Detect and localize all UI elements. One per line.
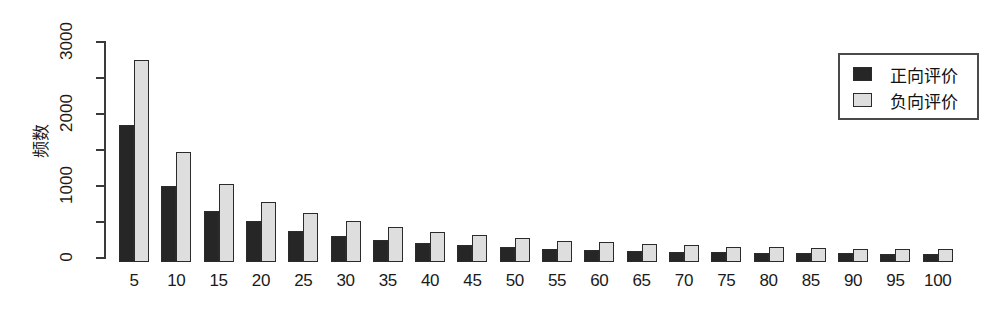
x-axis-tick-label: 55 (537, 271, 577, 291)
chart-canvas: 0100020003000 频数 51015202530354045505560… (0, 0, 1002, 329)
legend-swatch-negative-icon (853, 93, 872, 107)
bar-negative (726, 247, 741, 262)
x-axis-tick-label: 65 (622, 271, 662, 291)
legend-label-negative: 负向评价 (890, 88, 958, 113)
bar-positive (627, 251, 642, 262)
bar-positive (204, 211, 219, 262)
bar-negative (557, 241, 572, 262)
y-axis-tick-label-text: 0 (57, 252, 77, 261)
bar-group (627, 20, 657, 260)
bar-negative (811, 248, 826, 262)
bar-positive (923, 254, 938, 262)
x-axis-tick-label: 90 (833, 271, 873, 291)
legend-item-negative: 负向评价 (853, 89, 958, 111)
bar-positive (669, 252, 684, 262)
bar-group (457, 20, 487, 260)
bar-positive (754, 253, 769, 262)
bar-group (204, 20, 234, 260)
bar-group (584, 20, 614, 260)
bar-negative (303, 213, 318, 262)
y-axis-tick-label: 3000 (44, 31, 90, 51)
y-axis-tick-label-text: 3000 (57, 22, 77, 60)
bar-negative (599, 242, 614, 262)
bar-negative (938, 249, 953, 262)
bar-negative (219, 184, 234, 262)
legend-swatch-positive-icon (853, 67, 872, 81)
x-axis-tick-label: 40 (410, 271, 450, 291)
x-axis-tick-label: 60 (579, 271, 619, 291)
bar-negative (261, 202, 276, 262)
bar-positive (796, 253, 811, 262)
bar-group (331, 20, 361, 260)
y-axis-tick-label-text: 1000 (57, 166, 77, 204)
bar-group (796, 20, 826, 260)
y-axis-title: 频数 (27, 124, 52, 158)
x-axis-tick-label: 50 (495, 271, 535, 291)
bar-group (161, 20, 191, 260)
bar-group (246, 20, 276, 260)
x-axis-tick-label: 20 (241, 271, 281, 291)
x-axis-tick-label: 80 (749, 271, 789, 291)
bar-group (711, 20, 741, 260)
bar-negative (472, 235, 487, 262)
bar-negative (346, 221, 361, 262)
bar-negative (134, 60, 149, 262)
bar-negative (853, 249, 868, 262)
bar-negative (176, 152, 191, 262)
x-axis-tick-label: 25 (283, 271, 323, 291)
x-axis-tick-label: 35 (368, 271, 408, 291)
bar-positive (119, 125, 134, 262)
y-axis-tick-label: 0 (44, 247, 90, 267)
bar-group (500, 20, 530, 260)
legend-label-positive: 正向评价 (890, 62, 958, 87)
y-axis-tick-label: 2000 (44, 103, 90, 123)
bar-group (542, 20, 572, 260)
x-axis-tick-label: 15 (199, 271, 239, 291)
bar-positive (161, 186, 176, 262)
bar-negative (430, 232, 445, 262)
y-axis-tick-label: 1000 (44, 175, 90, 195)
x-axis-tick-label: 70 (664, 271, 704, 291)
bar-positive (838, 253, 853, 262)
x-axis-tick-label: 45 (452, 271, 492, 291)
bar-group (754, 20, 784, 260)
x-axis-tick-label: 10 (156, 271, 196, 291)
x-axis-tick-label: 85 (791, 271, 831, 291)
bar-negative (684, 245, 699, 262)
bar-group (669, 20, 699, 260)
chart-legend: 正向评价 负向评价 (838, 53, 979, 120)
x-axis-tick-label: 5 (114, 271, 154, 291)
x-axis-tick-label: 95 (875, 271, 915, 291)
bar-negative (769, 247, 784, 262)
bar-group (288, 20, 318, 260)
y-axis-tick-label-text: 2000 (57, 94, 77, 132)
bar-positive (331, 236, 346, 262)
bar-group (415, 20, 445, 260)
bar-group (373, 20, 403, 260)
bar-negative (515, 238, 530, 262)
x-axis-tick-label: 75 (706, 271, 746, 291)
bar-positive (500, 247, 515, 262)
bar-positive (373, 240, 388, 262)
bar-positive (288, 231, 303, 262)
bar-positive (584, 250, 599, 262)
bar-positive (542, 249, 557, 262)
bar-positive (457, 245, 472, 262)
bar-positive (880, 254, 895, 262)
legend-item-positive: 正向评价 (853, 63, 958, 85)
bar-negative (895, 249, 910, 262)
bar-group (119, 20, 149, 260)
bar-negative (642, 244, 657, 262)
bar-positive (246, 221, 261, 262)
bar-positive (415, 243, 430, 262)
bar-positive (711, 252, 726, 262)
x-axis-tick-label: 100 (918, 271, 958, 291)
x-axis-tick-label: 30 (326, 271, 366, 291)
bar-negative (388, 227, 403, 262)
